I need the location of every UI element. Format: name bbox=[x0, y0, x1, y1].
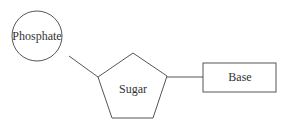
phosphate-node: Phosphate bbox=[12, 11, 62, 61]
base-node: Base bbox=[203, 63, 276, 92]
sugar-label: Sugar bbox=[119, 82, 147, 96]
phosphate-sugar-bond bbox=[69, 56, 98, 77]
base-label: Base bbox=[228, 70, 251, 84]
nucleotide-diagram: Phosphate Sugar Base bbox=[0, 0, 293, 127]
phosphate-label: Phosphate bbox=[12, 29, 61, 43]
sugar-node: Sugar bbox=[98, 53, 167, 118]
